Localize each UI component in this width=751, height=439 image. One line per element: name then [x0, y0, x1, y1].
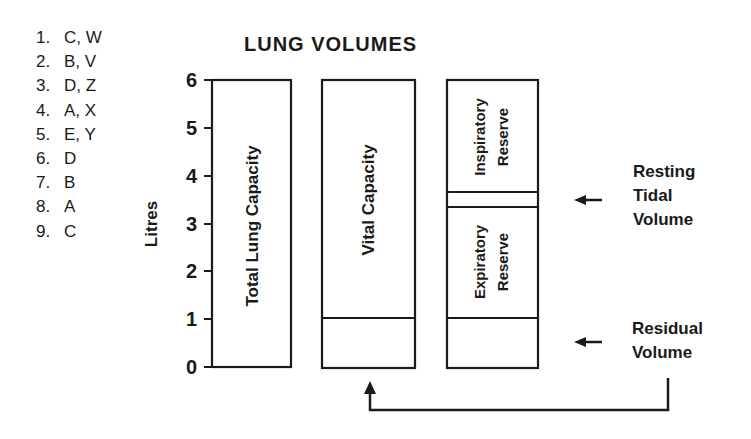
tidal-volume-annotation: Resting Tidal Volume [633, 160, 695, 232]
tick-label: 0 [186, 356, 197, 378]
annotation-line: Resting [633, 160, 695, 184]
inspiratory-reserve-label-1: Inspiratory [471, 98, 488, 176]
tick-marks [204, 80, 212, 367]
residual-connector-arrow-icon [364, 378, 668, 410]
inspiratory-reserve-label-2: Reserve [494, 108, 511, 166]
residual-volume-annotation: Residual Volume [632, 317, 703, 365]
y-axis-ticks: 0 1 2 3 4 5 6 [186, 69, 198, 378]
expiratory-reserve-label-1: Expiratory [471, 224, 488, 299]
y-axis-label: Litres [142, 201, 161, 247]
annotation-line: Volume [633, 208, 695, 232]
tick-label: 5 [186, 117, 197, 139]
annotation-line: Residual [632, 317, 703, 341]
residual-arrow-icon [574, 337, 602, 347]
expiratory-reserve-label-2: Reserve [494, 233, 511, 291]
annotation-line: Volume [632, 341, 703, 365]
bar-component-volumes [447, 80, 538, 368]
tick-label: 3 [186, 213, 197, 235]
tidal-arrow-icon [574, 195, 602, 205]
tick-label: 6 [186, 69, 197, 91]
tick-label: 4 [186, 165, 198, 187]
tick-label: 2 [186, 260, 197, 282]
bar-label-total-lung-capacity: Total Lung Capacity [243, 145, 262, 307]
tick-label: 1 [186, 308, 197, 330]
bar-label-vital-capacity: Vital Capacity [359, 144, 378, 256]
annotation-line: Tidal [633, 184, 695, 208]
